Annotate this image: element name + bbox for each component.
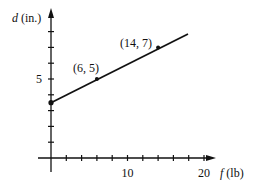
point-label-14-7: (14, 7) xyxy=(120,36,152,50)
y-axis-label: d (in.) xyxy=(12,11,41,25)
data-point-6-5 xyxy=(95,77,99,81)
x-axis-label: f (lb) xyxy=(220,166,244,180)
y-axis-arrow-icon xyxy=(48,8,54,18)
y-axis-unit: (in.) xyxy=(21,11,41,25)
chart: 10 20 5 d (in.) f (lb) (6, 5) (14, 7) xyxy=(0,0,261,188)
x-axis-unit: (lb) xyxy=(226,166,243,180)
data-point-14-7 xyxy=(156,45,160,49)
y-axis-var: d xyxy=(12,11,19,25)
point-label-6-5: (6, 5) xyxy=(73,61,99,75)
x-tick-label-10: 10 xyxy=(122,166,134,180)
y-tick-label-5: 5 xyxy=(36,72,42,86)
data-point-intercept xyxy=(48,100,53,105)
x-axis-arrow-icon xyxy=(206,155,216,161)
x-tick-label-20: 20 xyxy=(198,166,210,180)
x-axis-var: f xyxy=(220,166,225,180)
